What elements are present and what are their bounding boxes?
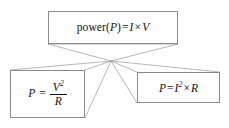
formula-i-squared-times-r: P=I2×R	[159, 81, 198, 94]
power-equals: =	[121, 21, 130, 33]
power-voltage-var: V	[142, 21, 149, 33]
power-symbol: P	[110, 21, 117, 33]
power-current-var: I	[130, 21, 134, 33]
connector-right-box-topright	[111, 61, 220, 72]
connector-left-box-top	[10, 61, 111, 70]
power-times-operator: ×	[134, 21, 143, 33]
connector-power-left	[48, 44, 111, 61]
fraction-denominator: R	[52, 95, 65, 108]
vsq-power-symbol: P	[28, 88, 35, 100]
connector-power-right	[111, 44, 178, 61]
connector-right-box-bottomleft	[111, 61, 137, 103]
fraction-v-squared-over-r: V2R	[50, 80, 67, 108]
fraction-numerator: V2	[50, 80, 67, 94]
isq-power-symbol: P	[159, 82, 166, 94]
numerator-exponent: 2	[60, 79, 64, 88]
numerator-voltage-var: V	[53, 81, 60, 93]
formula-v-squared-over-r: P=V2R	[28, 80, 67, 108]
vsq-equals: =	[38, 88, 47, 100]
diagram-canvas: power(P)=I×V P=V2R P=I2×R	[0, 0, 229, 128]
isq-equals: =	[166, 82, 175, 94]
node-v-squared-over-r[interactable]: P=V2R	[10, 70, 85, 118]
node-power-definition[interactable]: power(P)=I×V	[48, 11, 178, 44]
isq-resistance-var: R	[191, 82, 198, 94]
power-label: power	[77, 21, 106, 33]
isq-times-operator: ×	[182, 82, 191, 94]
formula-power: power(P)=I×V	[77, 22, 150, 34]
node-i-squared-times-r[interactable]: P=I2×R	[137, 72, 220, 103]
connector-left-box-bottomright	[85, 61, 111, 118]
